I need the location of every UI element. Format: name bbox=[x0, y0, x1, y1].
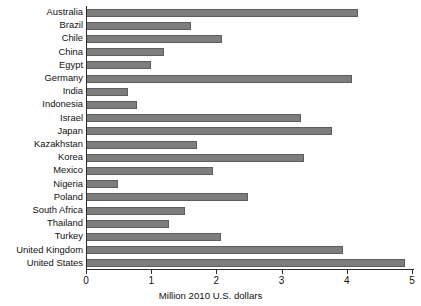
x-axis-title: Million 2010 U.S. dollars bbox=[0, 290, 421, 302]
x-tick-mark bbox=[412, 270, 413, 274]
x-tick-label: 1 bbox=[139, 275, 163, 287]
x-tick-label: 5 bbox=[400, 275, 421, 287]
x-tick-mark bbox=[347, 270, 348, 274]
x-tick-label: 4 bbox=[335, 275, 359, 287]
x-tick-label: 0 bbox=[74, 275, 98, 287]
x-tick-label: 2 bbox=[204, 275, 228, 287]
x-tick-mark bbox=[151, 270, 152, 274]
x-tick-mark bbox=[282, 270, 283, 274]
x-axis-ticks: 012345 bbox=[0, 0, 421, 306]
bar-chart: AustraliaBrazilChileChinaEgyptGermanyInd… bbox=[0, 0, 421, 306]
x-tick-mark bbox=[216, 270, 217, 274]
x-tick-label: 3 bbox=[270, 275, 294, 287]
x-tick-mark bbox=[86, 270, 87, 274]
